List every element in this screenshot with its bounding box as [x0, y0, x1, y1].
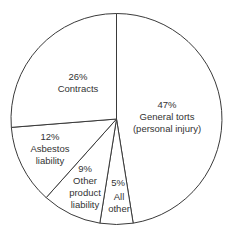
- label-all-other-line2: other: [108, 203, 130, 214]
- pie-slice-contracts: [11, 13, 117, 127]
- label-general-torts-pct: 47%: [157, 99, 177, 110]
- label-general-torts-line2: (personal injury): [133, 123, 201, 134]
- label-all-other-pct: 5%: [111, 177, 125, 188]
- label-contracts-pct: 26%: [68, 71, 88, 82]
- label-other-product-line2: product: [69, 187, 101, 198]
- label-asbestos-line2: liability: [36, 155, 65, 166]
- label-other-product-line3: liability: [71, 199, 100, 210]
- label-all-other-line1: All: [114, 191, 125, 202]
- label-contracts-line1: Contracts: [58, 83, 99, 94]
- label-asbestos-line1: Asbestos: [30, 143, 69, 154]
- pie-chart: 47% General torts (personal injury) 26% …: [0, 0, 243, 237]
- label-other-product-pct: 9%: [78, 163, 92, 174]
- label-other-product-line1: Other: [73, 175, 97, 186]
- label-general-torts-line1: General torts: [140, 111, 195, 122]
- label-asbestos-pct: 12%: [40, 131, 60, 142]
